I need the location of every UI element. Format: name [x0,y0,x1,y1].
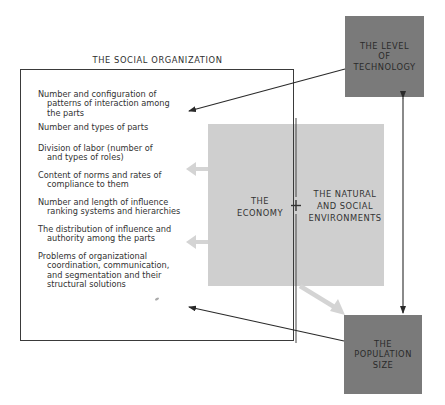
economy-to-distribution-arrow [186,235,208,249]
connector-overlay [0,0,445,405]
population-to-organization-arrow [189,307,344,341]
economy-to-division-arrow [186,162,208,176]
environment-to-population-arrow [300,286,345,315]
plus-icon [291,200,301,211]
smudge-mark [154,297,159,301]
technology-to-organization-arrow [189,69,345,111]
